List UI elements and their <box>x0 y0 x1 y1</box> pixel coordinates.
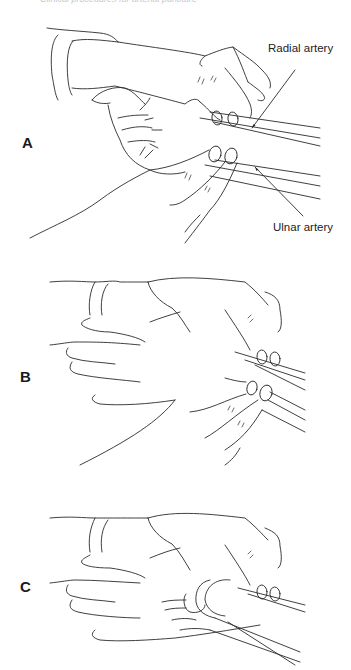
panel-label-b: B <box>20 368 31 385</box>
panel-a: A Radial artery Ulnar artery <box>0 20 351 265</box>
illustration-panel-b <box>0 270 351 470</box>
panel-c: C <box>0 470 351 670</box>
illustration-panel-c <box>0 470 351 670</box>
panel-label-c: C <box>20 578 31 595</box>
panel-b: B <box>0 270 351 470</box>
running-head: Clinical procedures for arterial punctur… <box>40 0 320 4</box>
callout-radial-artery: Radial artery <box>268 42 333 54</box>
callout-ulnar-artery: Ulnar artery <box>273 221 333 233</box>
panel-label-a: A <box>22 134 33 151</box>
